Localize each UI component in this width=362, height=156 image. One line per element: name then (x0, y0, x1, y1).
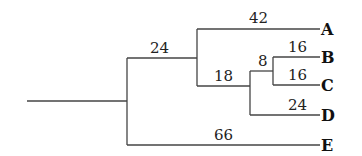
leaf-d: D (321, 106, 335, 125)
leaf-a: A (320, 20, 334, 39)
leaf-e: E (321, 136, 333, 155)
label-bcd: 18 (214, 67, 233, 85)
label-c: 16 (288, 66, 307, 84)
label-e: 66 (214, 126, 233, 144)
label-b: 16 (288, 38, 307, 56)
phylogenetic-tree: 24 42 18 8 16 16 24 66 A B C D E (0, 0, 362, 156)
label-a: 42 (249, 9, 268, 27)
label-bc: 8 (258, 52, 268, 70)
leaf-c: C (321, 76, 334, 95)
leaf-b: B (321, 48, 335, 67)
label-abcd: 24 (150, 39, 169, 57)
label-d: 24 (288, 96, 307, 114)
